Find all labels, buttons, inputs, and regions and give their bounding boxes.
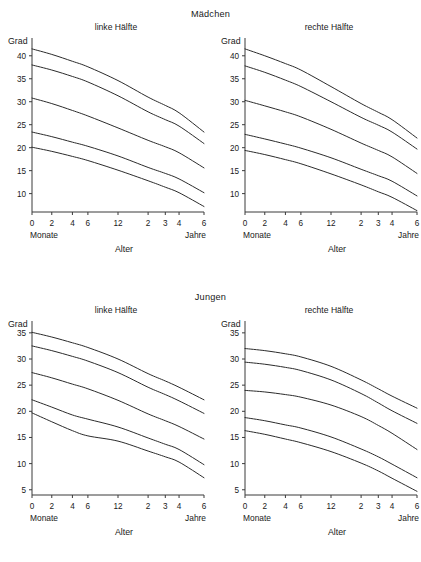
x-tick-label: 4 bbox=[70, 219, 75, 228]
y-tick-label: 25 bbox=[17, 381, 27, 390]
x-tick-label: 6 bbox=[86, 219, 91, 228]
y-tick-label: 20 bbox=[230, 407, 240, 416]
x-axis-name: Alter bbox=[328, 244, 346, 254]
x-tick-label: 3 bbox=[163, 502, 168, 511]
x-tick-label: 2 bbox=[146, 502, 151, 511]
plot-maedchen-linke-haelfte: 101520253035400246122346MonateJahreAlter bbox=[2, 20, 208, 266]
y-tick-label: 30 bbox=[230, 98, 240, 107]
percentile-curve bbox=[32, 98, 204, 168]
plot-jungen-rechte-haelfte: 51015202530350246122346MonateJahreAlter bbox=[215, 303, 421, 549]
y-tick-label: 35 bbox=[230, 329, 240, 338]
y-tick-label: 10 bbox=[230, 190, 240, 199]
y-tick-label: 30 bbox=[17, 98, 27, 107]
x-tick-label: 3 bbox=[376, 502, 381, 511]
x-tick-label: 2 bbox=[49, 502, 54, 511]
percentile-curve bbox=[32, 132, 204, 193]
y-tick-label: 35 bbox=[230, 75, 240, 84]
y-tick-label: 5 bbox=[21, 486, 26, 495]
x-tick-label: 0 bbox=[243, 502, 248, 511]
y-tick-label: 35 bbox=[17, 329, 27, 338]
x-axis-unit-left: Monate bbox=[243, 513, 271, 523]
x-tick-label: 4 bbox=[70, 502, 75, 511]
x-tick-label: 4 bbox=[177, 502, 182, 511]
x-tick-label: 2 bbox=[359, 219, 364, 228]
percentile-curve bbox=[245, 431, 417, 492]
panel-maedchen-rechte-haelfte: rechte Hälfte Grad 101520253035400246122… bbox=[215, 20, 421, 266]
percentile-curve bbox=[245, 49, 417, 138]
x-tick-label: 12 bbox=[113, 219, 123, 228]
y-tick-label: 15 bbox=[230, 433, 240, 442]
percentile-curve bbox=[245, 100, 417, 173]
y-tick-label: 20 bbox=[230, 144, 240, 153]
panel-maedchen-linke-haelfte: linke Hälfte Grad 1015202530354002461223… bbox=[2, 20, 208, 266]
x-tick-label: 6 bbox=[415, 502, 420, 511]
panel-jungen-rechte-haelfte: rechte Hälfte Grad 510152025303502461223… bbox=[215, 303, 421, 549]
percentile-curve bbox=[32, 49, 204, 132]
x-tick-label: 12 bbox=[326, 502, 336, 511]
x-axis-unit-right: Jahre bbox=[398, 513, 419, 523]
y-tick-label: 10 bbox=[230, 460, 240, 469]
x-tick-label: 0 bbox=[30, 219, 35, 228]
y-tick-label: 25 bbox=[230, 381, 240, 390]
percentile-curve bbox=[32, 400, 204, 465]
chart-group-jungen: Jungen linke Hälfte Grad 510152025303502… bbox=[0, 285, 421, 562]
plot-jungen-linke-haelfte: 51015202530350246122346MonateJahreAlter bbox=[2, 303, 208, 549]
chart-group-maedchen: Mädchen linke Hälfte Grad 10152025303540… bbox=[0, 0, 421, 281]
panel-row-jungen: linke Hälfte Grad 5101520253035024612234… bbox=[0, 303, 421, 549]
x-tick-label: 4 bbox=[390, 502, 395, 511]
y-tick-label: 10 bbox=[17, 190, 27, 199]
x-axis-unit-right: Jahre bbox=[185, 513, 206, 523]
x-axis-unit-left: Monate bbox=[243, 230, 271, 240]
x-tick-label: 4 bbox=[283, 219, 288, 228]
panel-row-maedchen: linke Hälfte Grad 1015202530354002461223… bbox=[0, 20, 421, 266]
group-title-maedchen: Mädchen bbox=[0, 0, 421, 20]
y-tick-label: 30 bbox=[230, 355, 240, 364]
y-tick-label: 35 bbox=[17, 75, 27, 84]
x-tick-label: 4 bbox=[177, 219, 182, 228]
x-tick-label: 6 bbox=[202, 502, 207, 511]
percentile-curve bbox=[32, 332, 204, 399]
x-tick-label: 2 bbox=[262, 219, 267, 228]
x-axis-unit-left: Monate bbox=[30, 230, 58, 240]
x-tick-label: 6 bbox=[415, 219, 420, 228]
percentile-curve bbox=[32, 65, 204, 144]
percentile-curve bbox=[245, 134, 417, 196]
y-tick-label: 40 bbox=[230, 52, 240, 61]
x-tick-label: 12 bbox=[326, 219, 336, 228]
x-tick-label: 3 bbox=[376, 219, 381, 228]
x-axis-name: Alter bbox=[115, 527, 133, 537]
y-tick-label: 30 bbox=[17, 355, 27, 364]
x-tick-label: 2 bbox=[359, 502, 364, 511]
x-tick-label: 6 bbox=[299, 502, 304, 511]
percentile-curve bbox=[32, 413, 204, 478]
percentile-curve bbox=[245, 349, 417, 409]
x-tick-label: 4 bbox=[283, 502, 288, 511]
y-tick-label: 20 bbox=[17, 407, 27, 416]
percentile-curve bbox=[32, 373, 204, 439]
x-tick-label: 4 bbox=[390, 219, 395, 228]
x-tick-label: 3 bbox=[163, 219, 168, 228]
x-axis-unit-right: Jahre bbox=[185, 230, 206, 240]
y-tick-label: 40 bbox=[17, 52, 27, 61]
y-tick-label: 5 bbox=[234, 486, 239, 495]
y-tick-label: 25 bbox=[230, 121, 240, 130]
y-tick-label: 25 bbox=[17, 121, 27, 130]
x-tick-label: 2 bbox=[146, 219, 151, 228]
x-tick-label: 2 bbox=[49, 219, 54, 228]
x-tick-label: 6 bbox=[86, 502, 91, 511]
plot-maedchen-rechte-haelfte: 101520253035400246122346MonateJahreAlter bbox=[215, 20, 421, 266]
y-tick-label: 15 bbox=[17, 433, 27, 442]
percentile-curve bbox=[245, 390, 417, 449]
y-tick-label: 10 bbox=[17, 460, 27, 469]
x-tick-label: 6 bbox=[202, 219, 207, 228]
x-tick-label: 2 bbox=[262, 502, 267, 511]
x-tick-label: 6 bbox=[299, 219, 304, 228]
y-tick-label: 15 bbox=[230, 167, 240, 176]
x-tick-label: 12 bbox=[113, 502, 123, 511]
y-tick-label: 15 bbox=[17, 167, 27, 176]
panel-jungen-linke-haelfte: linke Hälfte Grad 5101520253035024612234… bbox=[2, 303, 208, 549]
x-axis-name: Alter bbox=[328, 527, 346, 537]
percentile-curve bbox=[245, 418, 417, 478]
x-tick-label: 0 bbox=[243, 219, 248, 228]
x-tick-label: 0 bbox=[30, 502, 35, 511]
